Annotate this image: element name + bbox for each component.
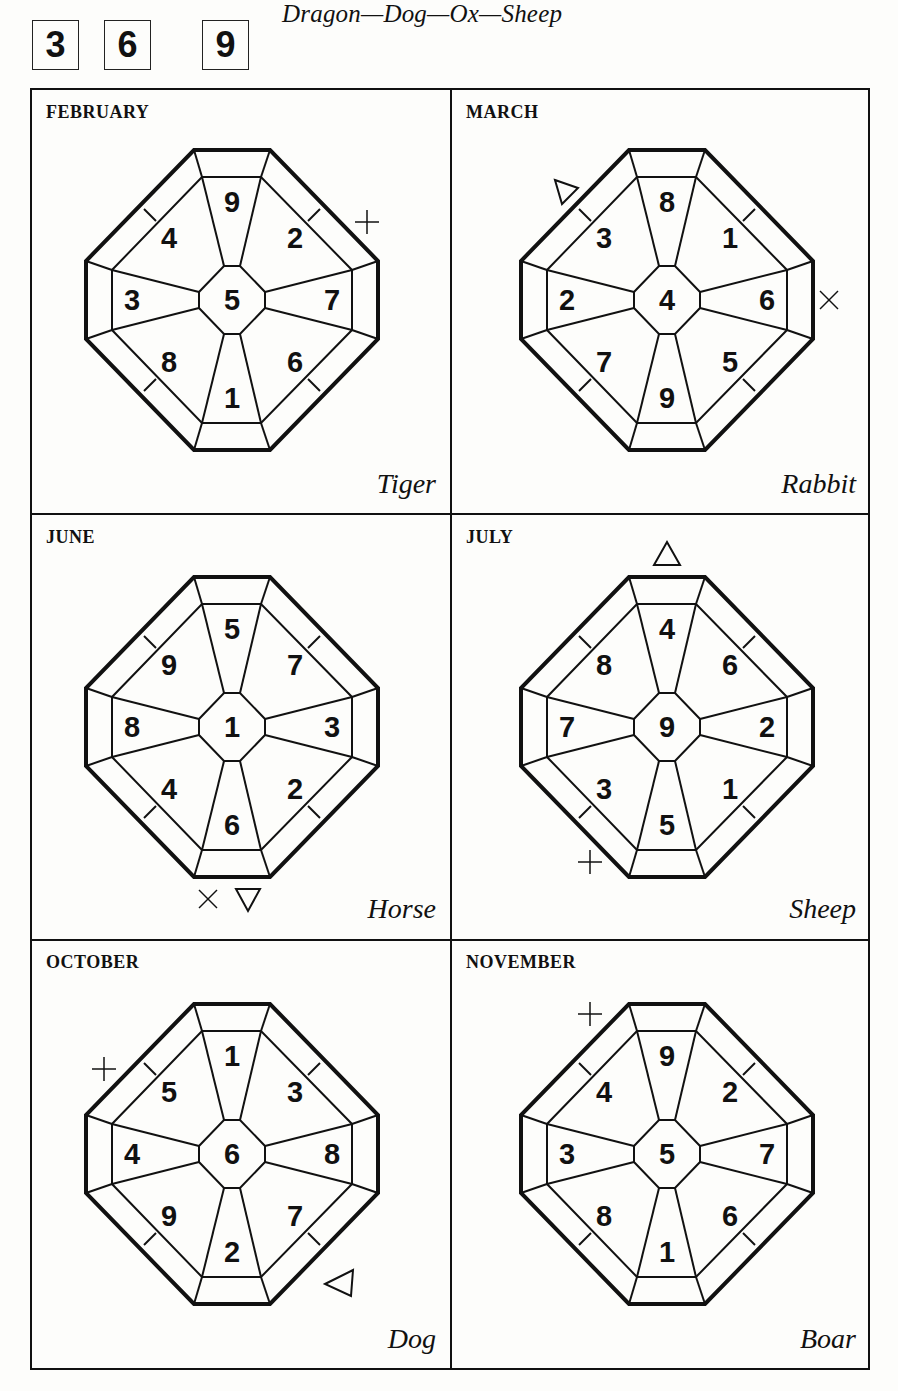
star-number-e: 8	[324, 1138, 340, 1170]
month-panel-march: MARCHRabbit481659723	[450, 88, 870, 513]
star-number-s: 1	[224, 382, 240, 414]
month-panel-july: JULYSheep946215378	[450, 513, 870, 938]
cross-marker-icon	[92, 1057, 116, 1081]
star-number-se: 6	[722, 1200, 738, 1232]
star-number-e: 2	[759, 711, 775, 743]
triangle-marker-icon	[325, 1270, 353, 1296]
star-number-w: 4	[124, 1138, 140, 1170]
star-number-center: 5	[224, 284, 240, 316]
star-number-nw: 4	[596, 1076, 612, 1108]
star-number-sw: 3	[596, 773, 612, 805]
star-number-se: 1	[722, 773, 738, 805]
star-number-ne: 6	[722, 649, 738, 681]
star-number-w: 8	[124, 711, 140, 743]
star-number-center: 1	[224, 711, 240, 743]
star-number-center: 6	[224, 1138, 240, 1170]
star-number-e: 7	[759, 1138, 775, 1170]
month-panel-october: OCTOBERDog613872945	[30, 938, 450, 1370]
month-panel-june: JUNEHorse157326489	[30, 513, 450, 938]
star-number-center: 5	[659, 1138, 675, 1170]
nine-star-octagon: 592761834	[450, 938, 870, 1370]
period-number-box: 6	[104, 20, 151, 70]
star-number-nw: 8	[596, 649, 612, 681]
star-number-nw: 4	[161, 222, 177, 254]
star-number-e: 6	[759, 284, 775, 316]
star-number-n: 9	[659, 1040, 675, 1072]
star-number-ne: 1	[722, 222, 738, 254]
x-mark-marker-icon	[820, 291, 838, 309]
page-title: Dragon—Dog—Ox—Sheep	[282, 0, 562, 28]
star-number-s: 9	[659, 382, 675, 414]
star-number-se: 7	[287, 1200, 303, 1232]
star-number-n: 1	[224, 1040, 240, 1072]
star-number-ne: 7	[287, 649, 303, 681]
star-number-sw: 9	[161, 1200, 177, 1232]
star-number-e: 7	[324, 284, 340, 316]
star-number-n: 5	[224, 613, 240, 645]
star-number-center: 4	[659, 284, 675, 316]
star-number-w: 2	[559, 284, 575, 316]
star-number-nw: 5	[161, 1076, 177, 1108]
star-number-se: 6	[287, 346, 303, 378]
nine-star-octagon: 613872945	[30, 938, 450, 1370]
star-number-sw: 7	[596, 346, 612, 378]
star-number-nw: 9	[161, 649, 177, 681]
period-number-box: 3	[32, 20, 79, 70]
month-panel-november: NOVEMBERBoar592761834	[450, 938, 870, 1370]
cross-marker-icon	[578, 1002, 602, 1026]
period-number-box: 9	[202, 20, 249, 70]
star-number-s: 6	[224, 809, 240, 841]
star-number-center: 9	[659, 711, 675, 743]
triangle-marker-icon	[555, 180, 578, 204]
cross-marker-icon	[578, 850, 602, 874]
star-number-n: 9	[224, 186, 240, 218]
star-number-ne: 2	[722, 1076, 738, 1108]
star-number-e: 3	[324, 711, 340, 743]
star-number-se: 5	[722, 346, 738, 378]
nine-star-octagon: 946215378	[450, 513, 870, 938]
nine-star-octagon: 157326489	[30, 513, 450, 938]
star-number-sw: 4	[161, 773, 177, 805]
nine-star-octagon: 592761834	[30, 88, 450, 513]
star-number-se: 2	[287, 773, 303, 805]
star-number-w: 7	[559, 711, 575, 743]
star-number-sw: 8	[596, 1200, 612, 1232]
star-number-w: 3	[559, 1138, 575, 1170]
x-mark-marker-icon	[199, 890, 217, 908]
triangle-marker-icon	[654, 542, 680, 565]
nine-star-octagon: 481659723	[450, 88, 870, 513]
star-number-ne: 3	[287, 1076, 303, 1108]
star-number-w: 3	[124, 284, 140, 316]
star-number-s: 2	[224, 1236, 240, 1268]
star-number-sw: 8	[161, 346, 177, 378]
star-number-n: 4	[659, 613, 675, 645]
triangle-down-marker-icon	[236, 889, 260, 911]
cross-marker-icon	[355, 210, 379, 234]
star-number-ne: 2	[287, 222, 303, 254]
star-number-n: 8	[659, 186, 675, 218]
star-number-nw: 3	[596, 222, 612, 254]
month-panel-february: FEBRUARYTiger592761834	[30, 88, 450, 513]
star-number-s: 1	[659, 1236, 675, 1268]
star-number-s: 5	[659, 809, 675, 841]
